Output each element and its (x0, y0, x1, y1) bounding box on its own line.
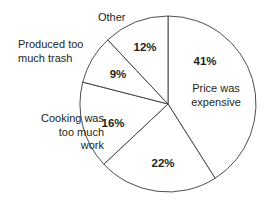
slice-callout-other: Other (98, 11, 126, 25)
pie-slice-percent-5: 12% (133, 41, 156, 53)
pie-slice-percent-2: 22% (151, 157, 174, 169)
pie-slice-percent-4: 9% (110, 68, 127, 80)
pie-chart: 41%22%16%9%12% Other Produced too much t… (0, 0, 264, 203)
slice-callout-produced-too-much-trash: Produced too much trash (18, 38, 106, 65)
slice-callout-cooking-was-too-much-work: Cooking was too much work (8, 112, 104, 153)
pie-slice-percent-1: 41% (193, 55, 216, 67)
slice-callout-price-was-expensive: Price was expensive (178, 82, 254, 109)
pie-slice-percent-3: 16% (101, 117, 124, 129)
